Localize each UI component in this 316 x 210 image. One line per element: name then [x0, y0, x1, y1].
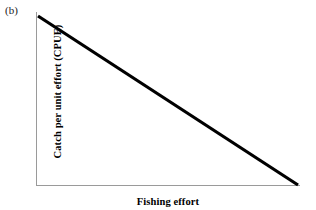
x-axis-label: Fishing effort [36, 196, 300, 207]
data-line-svg [36, 12, 300, 186]
y-axis-label: Catch per unit effort (CPUE) [52, 5, 63, 179]
plot-area: Catch per unit effort (CPUE) Fishing eff… [36, 12, 300, 186]
figure-panel-b: (b) Catch per unit effort (CPUE) Fishing… [0, 0, 316, 210]
trend-line-cpue [38, 16, 298, 185]
panel-label: (b) [5, 4, 18, 16]
